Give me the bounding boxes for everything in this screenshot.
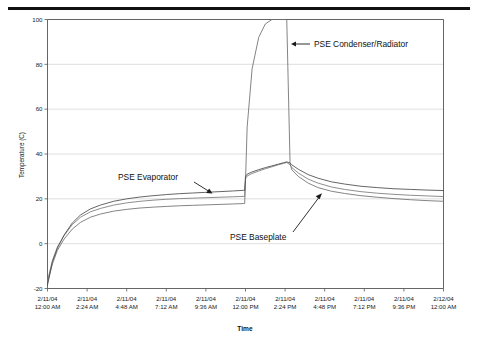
x-tick-time-5: 12:00 PM: [232, 303, 258, 310]
x-tick-time-2: 4:48 AM: [116, 303, 138, 310]
y-tick-label-0: 0: [39, 240, 43, 247]
x-tick-time-6: 2:24 PM: [274, 303, 297, 310]
baseplate-arrow-head: [206, 189, 212, 194]
x-tick-time-4: 9:36 AM: [195, 303, 217, 310]
annotation-evaporator: PSE Baseplate: [230, 193, 322, 242]
annotation-condenser: PSE Condenser/Radiator: [291, 39, 408, 49]
x-tick-time-3: 7:12 AM: [155, 303, 177, 310]
tick-marks-group: [45, 20, 444, 292]
x-tick-date-10: 2/12/04: [433, 295, 454, 302]
x-tick-date-6: 2/11/04: [275, 295, 295, 302]
baseplate-arrow-line: [194, 182, 210, 192]
y-axis-title: Temperature (C): [18, 132, 26, 178]
x-tick-time-10: 12:00 AM: [431, 303, 457, 310]
x-tick-date-9: 2/11/04: [394, 295, 414, 302]
temperature-line-chart: -20020406080100 2/11/0412:00 AM2/11/042:…: [0, 0, 477, 339]
series-group: [48, 20, 444, 286]
x-tick-time-7: 4:48 PM: [313, 303, 336, 310]
y-tick-label-40: 40: [36, 150, 43, 157]
y-tick-label-80: 80: [36, 61, 43, 68]
evaporator-arrow-line: [293, 196, 320, 232]
x-tick-date-1: 2/11/04: [77, 295, 97, 302]
y-tick-label-20: 20: [36, 195, 43, 202]
series-line-pse-baseplate: [48, 162, 444, 285]
y-tick-label-100: 100: [32, 16, 43, 23]
figure-container: -20020406080100 2/11/0412:00 AM2/11/042:…: [0, 0, 477, 339]
x-tick-date-5: 2/11/04: [236, 295, 256, 302]
x-tick-time-8: 7:12 PM: [353, 303, 376, 310]
annotation-condenser-label: PSE Condenser/Radiator: [314, 39, 408, 49]
x-tick-date-3: 2/11/04: [156, 295, 176, 302]
x-tick-date-7: 2/11/04: [315, 295, 335, 302]
x-axis-title: Time: [237, 325, 253, 332]
x-tick-date-0: 2/11/04: [38, 295, 58, 302]
y-tick-labels: -20020406080100: [32, 16, 43, 292]
x-tick-date-4: 2/11/04: [196, 295, 216, 302]
annotation-baseplate: PSE Evaporator: [118, 172, 213, 194]
x-tick-time-0: 12:00 AM: [35, 303, 61, 310]
annotation-baseplate-label: PSE Evaporator: [118, 172, 178, 182]
x-tick-date-8: 2/11/04: [354, 295, 374, 302]
x-tick-labels: 2/11/0412:00 AM2/11/042:24 AM2/11/044:48…: [35, 295, 457, 310]
x-tick-time-9: 9:36 PM: [393, 303, 416, 310]
x-tick-date-2: 2/11/04: [117, 295, 137, 302]
annotation-evaporator-label: PSE Baseplate: [230, 232, 287, 242]
condenser-arrow-head: [291, 42, 296, 47]
evaporator-arrow-head: [316, 193, 322, 199]
y-tick-label-60: 60: [36, 105, 43, 112]
gridlines-group: [48, 20, 444, 244]
x-tick-time-1: 2:24 AM: [76, 303, 98, 310]
y-tick-label--20: -20: [34, 285, 43, 292]
